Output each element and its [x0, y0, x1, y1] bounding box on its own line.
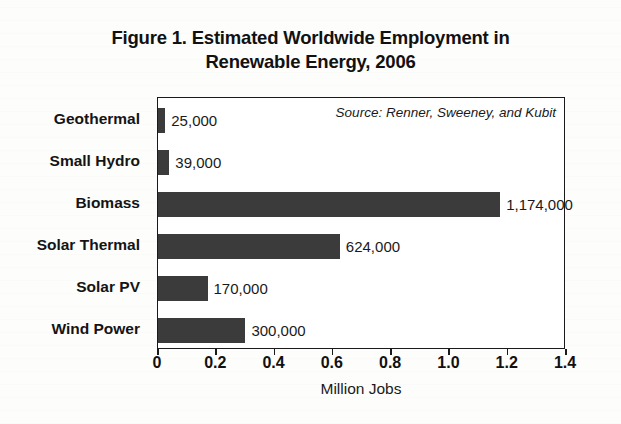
bar: [158, 318, 245, 343]
bar: [158, 150, 169, 175]
bar-row: 25,000: [158, 99, 217, 141]
bar: [158, 192, 500, 217]
plot-area: Source: Renner, Sweeney, and Kubit 25,00…: [157, 97, 565, 349]
category-label: Geothermal: [0, 98, 149, 140]
bar-row: 624,000: [158, 225, 400, 267]
x-tick-label: 0.2: [204, 354, 226, 372]
x-tick-label: 1.4: [554, 354, 576, 372]
bar-value-label: 170,000: [214, 281, 268, 296]
x-tick-label: 1.2: [496, 354, 518, 372]
bar-value-label: 624,000: [346, 239, 400, 254]
bar-value-label: 300,000: [251, 323, 305, 338]
figure-container: Figure 1. Estimated Worldwide Employment…: [0, 0, 621, 424]
figure-title: Figure 1. Estimated Worldwide Employment…: [50, 26, 571, 73]
category-label: Solar Thermal: [0, 224, 149, 266]
bar-row: 170,000: [158, 267, 268, 309]
category-axis-labels: GeothermalSmall HydroBiomassSolar Therma…: [0, 97, 149, 349]
figure-title-line-1: Figure 1. Estimated Worldwide Employment…: [50, 26, 571, 50]
x-tick-label: 0: [153, 354, 162, 372]
x-tick-label: 0.4: [262, 354, 284, 372]
bar-value-label: 39,000: [175, 155, 221, 170]
bar-value-label: 25,000: [171, 113, 217, 128]
category-label: Biomass: [0, 182, 149, 224]
bars-layer: 25,00039,0001,174,000624,000170,000300,0…: [158, 98, 564, 348]
x-tick-label: 0.6: [321, 354, 343, 372]
bar: [158, 276, 208, 301]
figure-title-line-2: Renewable Energy, 2006: [50, 50, 571, 74]
x-tick-label: 0.8: [379, 354, 401, 372]
x-axis-title: Million Jobs: [157, 380, 565, 398]
bar-value-label: 1,174,000: [506, 197, 573, 212]
bar-row: 1,174,000: [158, 183, 573, 225]
x-axis-tick-labels: 00.20.40.60.81.01.21.4: [157, 354, 565, 376]
bar: [158, 234, 340, 259]
bar: [158, 108, 165, 133]
category-label: Small Hydro: [0, 140, 149, 182]
bar-row: 300,000: [158, 309, 306, 351]
category-label: Solar PV: [0, 266, 149, 308]
x-tick-label: 1.0: [437, 354, 459, 372]
category-label: Wind Power: [0, 308, 149, 350]
bar-row: 39,000: [158, 141, 221, 183]
